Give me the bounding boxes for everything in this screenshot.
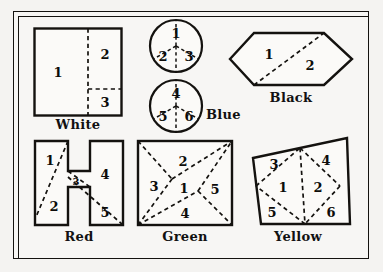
blue-piece-1-label: 1 [171,26,180,41]
blue-piece-2-label: 2 [158,49,167,64]
shape-red: 1 2 3 4 5 [33,139,125,227]
green-piece-4-label: 4 [180,206,189,221]
yellow-piece-6-label: 6 [326,205,335,220]
yellow-piece-2-label: 2 [313,180,322,195]
yellow-piece-1-label: 1 [278,180,287,195]
blue-piece-3-label: 3 [184,49,193,64]
black-outline [230,33,352,85]
green-piece-2-label: 2 [178,154,187,169]
red-piece-2-label: 2 [49,199,58,214]
shape-white-svg: 1 2 3 [33,27,123,117]
green-piece-1-label: 1 [179,181,188,196]
yellow-piece-3-label: 3 [269,157,278,172]
red-piece-1-label: 1 [45,153,54,168]
yellow-piece-5-label: 5 [267,205,276,220]
shape-blue-top: 1 2 3 [148,18,204,74]
red-piece-3-label: 3 [73,176,80,187]
red-piece-4-label: 4 [100,167,109,182]
shape-blue-bottom-svg: 4 5 6 [148,78,204,134]
black-piece-1-label: 1 [264,47,273,62]
shape-green-svg: 2 3 1 5 4 [136,139,234,227]
blue-piece-4-label: 4 [171,86,180,101]
shape-green: 2 3 1 5 4 [136,139,234,227]
caption-yellow: Yellow [243,229,353,244]
shape-yellow-svg: 3 4 1 2 5 6 [243,136,353,228]
yellow-piece-4-label: 4 [321,153,330,168]
red-piece-5-label: 5 [100,205,109,220]
shape-blue-bottom: 4 5 6 [148,78,204,134]
caption-red: Red [33,229,125,244]
shape-red-svg: 1 2 3 4 5 [33,139,125,227]
green-piece-5-label: 5 [210,182,219,197]
blue-piece-6-label: 6 [184,109,193,124]
white-piece-3-label: 3 [100,95,109,110]
shape-black: 1 2 [228,28,354,90]
shape-black-svg: 1 2 [228,28,354,90]
black-piece-2-label: 2 [305,58,314,73]
shape-blue-top-svg: 1 2 3 [148,18,204,74]
caption-blue: Blue [206,107,241,122]
shape-white: 1 2 3 [33,27,123,117]
blue-piece-5-label: 5 [158,109,167,124]
white-piece-2-label: 2 [100,47,109,62]
caption-white: White [33,117,123,132]
caption-green: Green [136,229,234,244]
shape-yellow: 3 4 1 2 5 6 [243,136,353,228]
green-piece-3-label: 3 [149,179,158,194]
caption-black: Black [228,90,354,105]
white-piece-1-label: 1 [53,65,62,80]
diagram-page: 1 2 3 White 1 2 3 4 5 6 Blue [0,0,383,272]
